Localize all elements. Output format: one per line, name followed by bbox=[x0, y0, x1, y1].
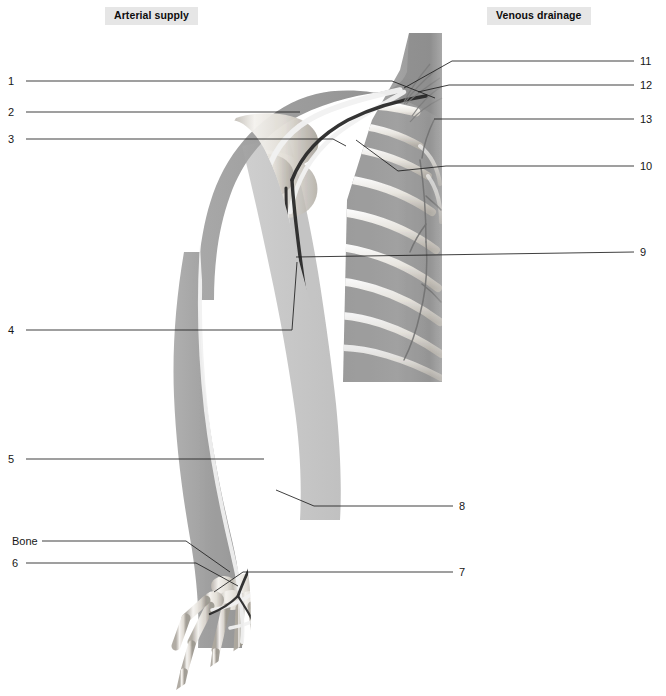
callout-label-9: 9 bbox=[640, 247, 646, 258]
venous-drainage-title: Venous drainage bbox=[487, 7, 591, 25]
callout-label-13: 13 bbox=[640, 114, 652, 125]
callout-label-2: 2 bbox=[8, 107, 14, 118]
hand-skeleton bbox=[176, 574, 268, 695]
callout-label-12: 12 bbox=[640, 80, 652, 91]
callout-label-11: 11 bbox=[640, 56, 651, 67]
callout-label-bone: Bone bbox=[12, 536, 38, 547]
arterial-supply-title: Arterial supply bbox=[105, 7, 198, 25]
figure-canvas: Arterial supply Venous drainage 12345Bon… bbox=[0, 0, 666, 696]
callout-label-5: 5 bbox=[8, 454, 14, 465]
callout-label-3: 3 bbox=[8, 134, 14, 145]
forearm-bones bbox=[237, 424, 286, 556]
callout-label-6: 6 bbox=[12, 558, 18, 569]
callout-label-1: 1 bbox=[8, 76, 14, 87]
callout-label-10: 10 bbox=[640, 161, 652, 172]
plate-fade bbox=[430, 33, 470, 382]
callout-label-7: 7 bbox=[459, 567, 465, 578]
callout-label-4: 4 bbox=[8, 325, 14, 336]
anatomy-illustration bbox=[0, 0, 666, 696]
callout-label-8: 8 bbox=[459, 501, 465, 512]
